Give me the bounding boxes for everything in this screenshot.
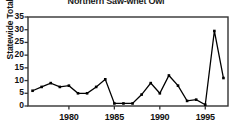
data-point-marker <box>104 78 107 81</box>
data-point-marker <box>213 30 216 33</box>
data-point-marker <box>177 84 180 87</box>
plot-area <box>0 0 232 135</box>
data-point-marker <box>204 103 207 106</box>
data-point-marker <box>31 89 34 92</box>
data-point-marker <box>122 102 125 105</box>
data-point-marker <box>195 98 198 101</box>
data-point-marker <box>59 86 62 89</box>
data-point-marker <box>40 86 43 89</box>
data-point-marker <box>149 82 152 85</box>
data-point-marker <box>159 92 162 95</box>
data-point-marker <box>222 77 225 80</box>
chart-figure: Northern Saw-whet Owl Statewide Totals 0… <box>0 0 232 135</box>
plot-border <box>28 17 228 106</box>
data-point-marker <box>95 86 98 89</box>
data-point-marker <box>49 82 52 85</box>
data-point-marker <box>68 84 71 87</box>
data-point-marker <box>131 102 134 105</box>
data-point-marker <box>186 100 189 103</box>
data-point-marker <box>86 92 89 95</box>
data-point-marker <box>113 102 116 105</box>
data-point-marker <box>140 93 143 96</box>
data-point-marker <box>168 74 171 77</box>
data-point-marker <box>77 92 80 95</box>
